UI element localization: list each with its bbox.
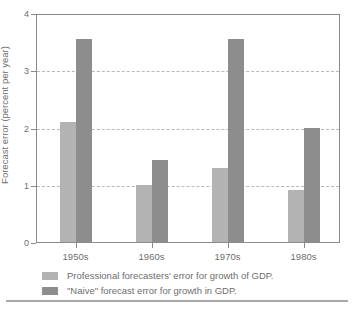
bar-naive-1970s xyxy=(228,39,244,242)
bar-naive-1960s xyxy=(152,160,168,242)
x-tick-mark-1980s xyxy=(304,243,305,248)
legend-item-1: "Naive" forecast error for growth in GDP… xyxy=(42,283,342,298)
chart-legend: Professional forecasters' error for grow… xyxy=(42,268,342,298)
bottom-divider xyxy=(6,300,348,302)
bar-naive-1980s xyxy=(304,128,320,243)
legend-item-0: Professional forecasters' error for grow… xyxy=(42,268,342,283)
bar-naive-1950s xyxy=(76,39,92,242)
y-tick-1: 1 xyxy=(36,186,37,187)
legend-label-1: "Naive" forecast error for growth in GDP… xyxy=(67,285,237,296)
x-tick-mark-1960s xyxy=(152,243,153,248)
y-tick-label: 2 xyxy=(24,124,29,133)
y-tick-label: 1 xyxy=(24,181,29,190)
y-tick-label: 4 xyxy=(24,10,29,19)
axis-line-right xyxy=(339,14,340,243)
x-tick-mark-1950s xyxy=(76,243,77,248)
y-tick-3: 3 xyxy=(36,71,37,72)
axis-line-top xyxy=(36,14,340,15)
x-tick-label-1960s: 1960s xyxy=(139,251,165,262)
bar-professional-1960s xyxy=(136,185,152,242)
legend-swatch-1 xyxy=(42,287,58,295)
x-tick-mark-1970s xyxy=(228,243,229,248)
y-tick-label: 0 xyxy=(24,239,29,248)
chart-figure: Forecast error (percent per year) 43210 … xyxy=(0,0,354,310)
y-tick-label: 3 xyxy=(24,67,29,76)
y-tick-mark xyxy=(31,129,36,130)
y-tick-mark xyxy=(31,186,36,187)
bar-professional-1970s xyxy=(212,168,228,242)
y-tick-2: 2 xyxy=(36,129,37,130)
y-tick-4: 4 xyxy=(36,14,37,15)
y-axis-label: Forecast error (percent per year) xyxy=(0,0,12,229)
bar-professional-1980s xyxy=(288,190,304,242)
y-tick-0: 0 xyxy=(36,243,37,244)
y-axis-label-text: Forecast error (percent per year) xyxy=(0,46,10,184)
x-tick-label-1950s: 1950s xyxy=(63,251,89,262)
legend-label-0: Professional forecasters' error for grow… xyxy=(67,270,274,281)
bar-professional-1950s xyxy=(60,122,76,242)
y-tick-mark xyxy=(31,243,36,244)
axis-line-bottom xyxy=(36,242,340,243)
x-tick-label-1980s: 1980s xyxy=(291,251,317,262)
y-tick-mark xyxy=(31,14,36,15)
legend-swatch-0 xyxy=(42,272,58,280)
x-tick-label-1970s: 1970s xyxy=(215,251,241,262)
y-tick-mark xyxy=(31,71,36,72)
plot-area: 43210 1950s1960s1970s1980s xyxy=(36,14,340,243)
